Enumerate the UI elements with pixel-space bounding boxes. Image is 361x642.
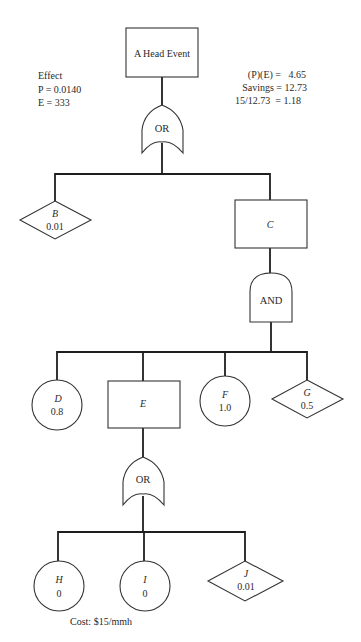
and-gate-label: AND (260, 295, 283, 306)
cost-benefit-ratio: 15/12.73 = 1.18 (235, 95, 301, 106)
event-e[interactable]: E (108, 381, 180, 428)
head-event-node[interactable]: A Head Event (126, 28, 198, 77)
cost-annotation: Cost: $15/mmh (70, 616, 132, 627)
effect-probability: P = 0.0140 (38, 84, 81, 95)
event-b-value: 0.01 (46, 221, 64, 232)
event-d[interactable]: D 0.8 (32, 380, 82, 430)
or-gate-label: OR (155, 123, 170, 134)
event-d-value: 0.8 (51, 406, 64, 417)
effect-annotation: Effect P = 0.0140 E = 333 (38, 70, 81, 108)
and-gate[interactable]: AND (250, 273, 292, 322)
event-c-name: C (267, 219, 274, 230)
event-j[interactable]: J 0.01 (208, 561, 283, 601)
event-h-name: H (54, 574, 63, 585)
event-b[interactable]: B 0.01 (20, 201, 91, 239)
wire-or1-bus (55, 174, 270, 201)
event-i[interactable]: I 0 (120, 561, 170, 611)
event-i-value: 0 (143, 588, 148, 599)
event-f-value: 1.0 (219, 402, 232, 413)
undeveloped-event-diamond (20, 201, 91, 239)
fault-tree-diagram: A Head Event OR B 0.01 C AND D 0.8 E F 1… (0, 0, 361, 642)
event-f-name: F (221, 389, 229, 400)
basic-event-circle (32, 380, 82, 430)
event-d-name: D (53, 393, 62, 404)
effect-exposure: E = 333 (38, 97, 70, 108)
event-h-value: 0 (57, 588, 62, 599)
basic-event-circle (120, 561, 170, 611)
or-gate-label: OR (136, 474, 151, 485)
event-f[interactable]: F 1.0 (200, 376, 250, 426)
event-g-name: G (303, 387, 310, 398)
event-j-value: 0.01 (237, 581, 255, 592)
savings: Savings = 12.73 (242, 82, 307, 93)
economics-annotation: (P)(E) = 4.65 Savings = 12.73 15/12.73 =… (235, 69, 307, 106)
pe-product: (P)(E) = 4.65 (248, 69, 306, 81)
event-b-name: B (52, 208, 58, 219)
event-c[interactable]: C (235, 200, 307, 248)
head-event-label: A Head Event (134, 48, 190, 59)
event-j-name: J (244, 568, 249, 579)
event-g-value: 0.5 (301, 400, 314, 411)
event-h[interactable]: H 0 (34, 561, 84, 611)
basic-event-circle (34, 561, 84, 611)
wire-or2-bus (58, 532, 245, 561)
basic-event-circle (200, 376, 250, 426)
effect-heading: Effect (38, 70, 62, 81)
wire-and-bus (57, 352, 307, 380)
event-i-name: I (142, 574, 147, 585)
undeveloped-event-diamond (272, 380, 343, 418)
event-g[interactable]: G 0.5 (272, 380, 343, 418)
event-e-name: E (139, 398, 146, 409)
